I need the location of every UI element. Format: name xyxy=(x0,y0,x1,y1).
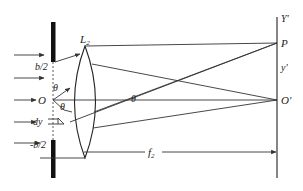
label-lens: L2 xyxy=(79,33,90,47)
label-point-p: P xyxy=(280,37,288,49)
slit-bottom-bar xyxy=(51,140,56,178)
rays xyxy=(40,43,277,158)
label-theta-upper: θ xyxy=(53,82,58,93)
dy-element xyxy=(48,118,64,124)
label-y-prime: y' xyxy=(280,62,288,73)
label-screen-axis: Y' xyxy=(281,13,290,24)
lens-l2 xyxy=(75,46,96,158)
label-origin: O xyxy=(38,94,46,106)
slit-top-bar xyxy=(51,22,56,62)
label-slit-bottom: -b/2 xyxy=(30,139,46,150)
label-slit-top: b/2 xyxy=(35,61,48,72)
label-theta-lower: θ xyxy=(60,101,65,112)
label-dy: dy xyxy=(33,116,43,127)
label-origin-image: O' xyxy=(281,94,292,106)
diffraction-diagram: L2 b/2 O θ θ dy -b/2 θ Y' P y' O' f2 xyxy=(0,0,303,191)
label-theta-lens: θ xyxy=(131,93,136,104)
label-focal: f2 xyxy=(148,146,155,160)
